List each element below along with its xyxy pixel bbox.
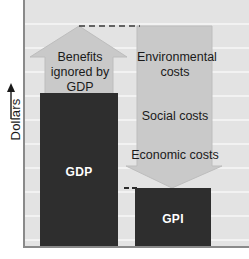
bar-label-gpi: GPI <box>135 212 211 226</box>
bar-label-gdp: GDP <box>40 165 118 179</box>
benefits-line-3: GDP <box>34 80 126 95</box>
annotation-arrow-layer <box>0 0 249 259</box>
gdp-gpi-comparison-figure: GDP GPI Benefits ignored by GDP Environm… <box>0 0 249 259</box>
benefits-line-1: Benefits <box>34 50 126 65</box>
y-axis-up-arrow-icon <box>4 83 18 119</box>
economic-costs-label: Economic costs <box>130 148 220 163</box>
benefits-line-2: ignored by <box>34 65 126 80</box>
y-axis-line <box>23 0 25 247</box>
benefits-arrow-label: Benefits ignored by GDP <box>34 50 126 95</box>
environmental-line-2: costs <box>137 65 213 80</box>
x-axis-line <box>23 246 249 248</box>
environmental-line-1: Environmental <box>137 50 213 65</box>
environmental-costs-label: Environmental costs <box>137 50 213 80</box>
social-costs-label: Social costs <box>137 109 213 124</box>
